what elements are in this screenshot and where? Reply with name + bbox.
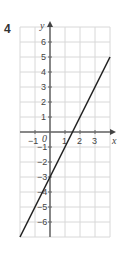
y-tick-label: 4: [41, 67, 46, 77]
y-tick-label: −2: [37, 157, 47, 167]
y-tick-label: 1: [41, 112, 46, 122]
x-tick-label: 3: [92, 136, 97, 146]
y-axis-label: y: [39, 20, 45, 31]
y-tick-label: −6: [37, 217, 47, 227]
x-tick-label: 2: [77, 136, 82, 146]
x-axis-label: x: [111, 135, 117, 146]
y-tick-label: −5: [37, 202, 47, 212]
y-tick-label: 2: [41, 97, 46, 107]
line-graph: xy0−1123−6−5−4−3−2−1123456: [0, 0, 124, 253]
y-tick-label: 5: [41, 52, 46, 62]
y-tick-label: 6: [41, 37, 46, 47]
y-tick-label: 3: [41, 82, 46, 92]
y-axis-arrow-icon: [47, 21, 53, 27]
y-tick-label: −3: [37, 172, 47, 182]
y-tick-label: −1: [37, 142, 47, 152]
